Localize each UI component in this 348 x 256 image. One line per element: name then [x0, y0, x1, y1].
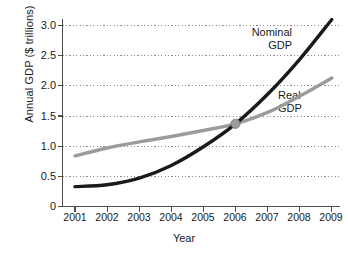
gdp-line-chart: Annual GDP ($ trillions) 3.0 2.5 2.0 1.5… — [0, 0, 348, 256]
plot-area — [0, 0, 348, 256]
intersection-point — [231, 119, 240, 128]
